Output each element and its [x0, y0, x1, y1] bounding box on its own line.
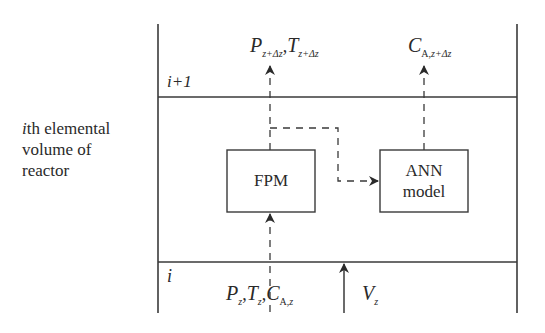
ann-label-line2: model — [380, 181, 468, 202]
ann-output-label: CA,z+Δz — [408, 34, 451, 59]
side-label-line2: volume of — [22, 139, 110, 160]
upper-boundary-label: i+1 — [167, 72, 192, 92]
side-label-line1: th elemental — [27, 119, 111, 138]
ann-label-line1: ANN — [380, 160, 468, 181]
fpm-label: FPM — [227, 170, 315, 191]
velocity-label: Vz — [362, 282, 378, 307]
input-label: Pz,Tz,CA,z — [226, 282, 293, 307]
fpm-output-label: Pz+Δz,Tz+Δz — [250, 34, 319, 59]
lower-boundary-label: i — [167, 266, 172, 287]
ann-label: ANN model — [380, 160, 468, 202]
element-description-label: ith elemental volume of reactor — [22, 118, 110, 181]
side-label-line3: reactor — [22, 160, 110, 181]
